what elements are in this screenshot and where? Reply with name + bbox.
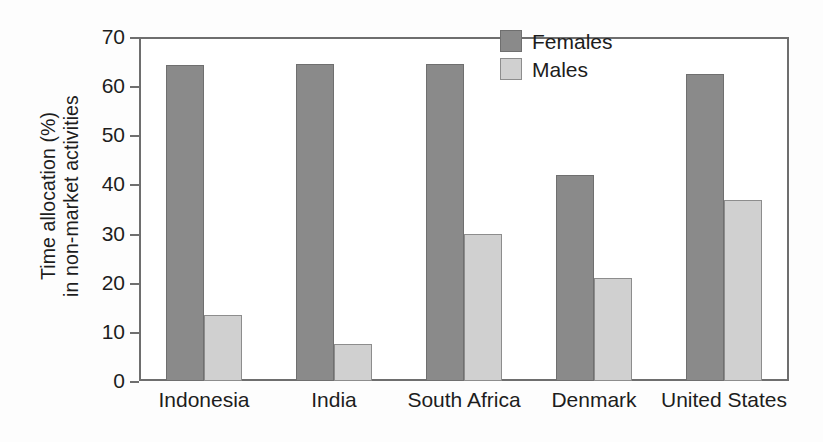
y-tick-mark <box>130 332 139 334</box>
y-tick-label: 50 <box>102 123 125 147</box>
bar-females-india <box>296 64 334 381</box>
y-tick-label: 40 <box>102 172 125 196</box>
legend: Females Males <box>500 30 613 80</box>
bar-males-south-africa <box>464 234 502 381</box>
y-tick-mark <box>130 86 139 88</box>
legend-item-males: Males <box>500 58 613 80</box>
y-tick-mark <box>130 184 139 186</box>
y-axis-title-line-2: in non-market activities <box>60 95 83 297</box>
legend-label-females: Females <box>532 31 613 52</box>
y-tick-mark <box>130 135 139 137</box>
x-tick-label-indonesia: Indonesia <box>158 388 249 412</box>
y-tick-mark <box>130 283 139 285</box>
bars-layer <box>139 37 789 381</box>
y-axis-title: Time allocation (%) in non-market activi… <box>34 31 86 361</box>
x-tick-label-denmark: Denmark <box>551 388 636 412</box>
bar-males-united-states <box>724 200 762 381</box>
x-tick-label-united-states: United States <box>661 388 787 412</box>
bar-females-indonesia <box>166 65 204 381</box>
legend-swatch-females-icon <box>500 30 522 52</box>
y-tick-mark <box>130 381 139 383</box>
legend-swatch-males-icon <box>500 58 522 80</box>
x-tick-label-india: India <box>311 388 357 412</box>
bar-chart: Time allocation (%) in non-market activi… <box>0 0 823 442</box>
y-tick-label: 20 <box>102 271 125 295</box>
y-tick-label: 30 <box>102 222 125 246</box>
y-tick-label: 70 <box>102 25 125 49</box>
x-tick-label-south-africa: South Africa <box>407 388 520 412</box>
bar-males-india <box>334 344 372 381</box>
y-tick-mark <box>130 234 139 236</box>
legend-item-females: Females <box>500 30 613 52</box>
legend-label-males: Males <box>532 59 588 80</box>
y-tick-label: 60 <box>102 74 125 98</box>
bar-females-south-africa <box>426 64 464 381</box>
bar-females-denmark <box>556 175 594 381</box>
y-tick-mark <box>130 37 139 39</box>
y-tick-label: 10 <box>102 320 125 344</box>
y-axis-title-line-1: Time allocation (%) <box>37 112 60 280</box>
bar-males-denmark <box>594 278 632 381</box>
x-axis: IndonesiaIndiaSouth AfricaDenmarkUnited … <box>139 388 789 428</box>
y-tick-label: 0 <box>113 369 125 393</box>
bar-females-united-states <box>686 74 724 381</box>
bar-males-indonesia <box>204 315 242 381</box>
